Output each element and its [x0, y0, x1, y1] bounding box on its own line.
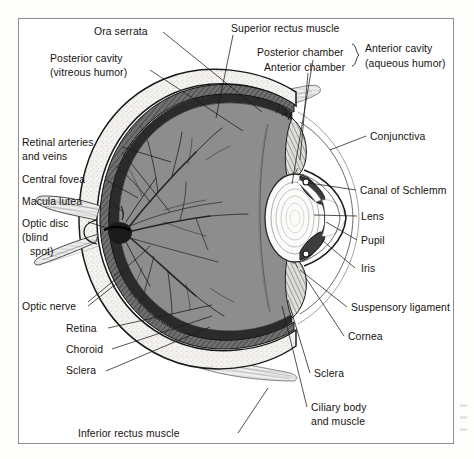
label-retinal-arteries-line2: and veins [22, 151, 67, 162]
label-canal-of-schlemm: Canal of Schlemm [360, 185, 447, 196]
label-ora-serrata: Ora serrata [94, 26, 148, 37]
label-posterior-cavity-line2: (vitreous humor) [50, 67, 127, 78]
label-optic-disc-line3: spot) [30, 246, 54, 257]
label-anterior-cavity-line2: (aqueous humor) [365, 58, 446, 69]
label-macula-lutea: Macula lutea [22, 196, 82, 207]
label-conjunctiva: Conjunctiva [370, 131, 426, 142]
label-suspensory-ligament: Suspensory ligament [351, 302, 450, 313]
label-pupil: Pupil [361, 235, 385, 246]
label-optic-nerve: Optic nerve [22, 301, 76, 312]
label-ciliary-body-line2: and muscle [311, 416, 365, 427]
label-superior-rectus-muscle: Superior rectus muscle [231, 23, 340, 34]
label-posterior-chamber: Posterior chamber [257, 47, 344, 58]
label-iris: Iris [361, 263, 375, 274]
label-cornea: Cornea [348, 331, 383, 342]
label-central-fovea: Central fovea [22, 174, 85, 185]
label-retinal-arteries-line1: Retinal arteries [22, 137, 93, 148]
label-lens: Lens [361, 211, 384, 222]
page-edge-artifact [460, 404, 472, 450]
label-inferior-rectus-muscle: Inferior rectus muscle [78, 428, 180, 439]
figure-page: Ora serrata Posterior cavity (vitreous h… [0, 0, 474, 459]
label-optic-disc-line1: Optic disc [22, 218, 69, 229]
label-choroid: Choroid [66, 344, 103, 355]
label-anterior-chamber: Anterior chamber [264, 62, 346, 73]
eye-diagram: Ora serrata Posterior cavity (vitreous h… [0, 0, 474, 459]
label-ciliary-body-line1: Ciliary body [311, 402, 367, 413]
label-retina: Retina [66, 323, 97, 334]
label-posterior-cavity-line1: Posterior cavity [50, 53, 123, 64]
label-sclera-right: Sclera [314, 368, 344, 379]
label-optic-disc-line2: (blind [22, 232, 48, 243]
label-sclera-left: Sclera [66, 365, 96, 376]
label-anterior-cavity-line1: Anterior cavity [365, 43, 433, 54]
